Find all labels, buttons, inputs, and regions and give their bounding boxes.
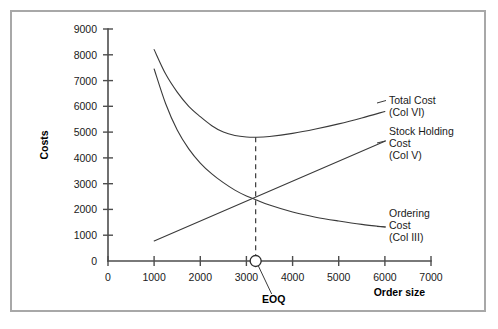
stock-holding-label-line2: Cost — [389, 137, 411, 149]
ordering-label-line2: Cost — [389, 219, 411, 231]
y-tick-label-1000: 1000 — [74, 229, 98, 241]
curve-ordering-cost — [154, 69, 385, 227]
total-cost-label-line1: Total Cost — [389, 94, 436, 106]
x-tick-label-7000: 7000 — [419, 271, 443, 283]
series-label-ordering: Ordering Cost (Col III) — [389, 207, 430, 243]
x-tick-label-5000: 5000 — [327, 271, 351, 283]
x-tick-label-3000: 3000 — [235, 271, 259, 283]
eoq-leader-line — [258, 266, 272, 295]
x-tick-labels: 0 1000 2000 3000 4000 5000 6000 7000 — [105, 271, 443, 283]
stock-holding-label-line1: Stock Holding — [389, 125, 454, 137]
curve-stock-holding-cost — [154, 141, 385, 241]
eoq-cost-chart: 9000 8000 7000 6000 5000 4000 3000 2000 … — [0, 0, 498, 329]
x-tick-label-1000: 1000 — [142, 271, 166, 283]
y-tick-labels: 9000 8000 7000 6000 5000 4000 3000 2000 … — [74, 23, 98, 267]
y-tick-label-2000: 2000 — [74, 203, 98, 215]
y-axis-title: Costs — [38, 130, 50, 159]
ordering-label-line1: Ordering — [389, 207, 430, 219]
x-tick-label-2000: 2000 — [189, 271, 213, 283]
y-tick-label-4000: 4000 — [74, 152, 98, 164]
x-axis-title: Order size — [374, 286, 426, 298]
series-label-total-cost: Total Cost (Col VI) — [389, 94, 436, 118]
stock-holding-label-line3: (Col V) — [389, 149, 422, 161]
ordering-label-line3: (Col III) — [389, 231, 423, 243]
x-tick-label-0: 0 — [105, 271, 111, 283]
y-tick-label-8000: 8000 — [74, 49, 98, 61]
series-label-stock-holding: Stock Holding Cost (Col V) — [389, 125, 454, 161]
eoq-label: EOQ — [262, 293, 285, 305]
x-tick-label-4000: 4000 — [281, 271, 305, 283]
y-tick-label-6000: 6000 — [74, 100, 98, 112]
figure-root: 9000 8000 7000 6000 5000 4000 3000 2000 … — [0, 0, 498, 329]
y-tick-label-5000: 5000 — [74, 126, 98, 138]
y-tick-label-7000: 7000 — [74, 75, 98, 87]
y-tick-label-9000: 9000 — [74, 23, 98, 35]
y-tick-label-0: 0 — [91, 255, 97, 267]
eoq-marker-circle[interactable] — [250, 256, 261, 267]
total-cost-label-line2: (Col VI) — [389, 106, 425, 118]
curve-total-cost-smooth — [154, 50, 385, 138]
ordering-leader-line — [377, 227, 386, 228]
y-tick-label-3000: 3000 — [74, 178, 98, 190]
total-cost-leader-line — [377, 101, 386, 104]
x-tick-label-6000: 6000 — [373, 271, 397, 283]
